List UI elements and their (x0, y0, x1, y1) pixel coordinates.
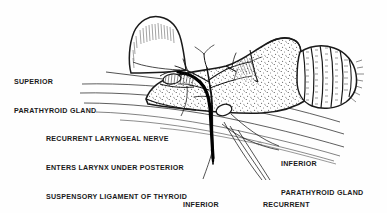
label-line: INFERIOR (183, 201, 249, 211)
anatomical-figure: SUPERIOR PARATHYROID GLAND RECURRENT LAR… (0, 0, 387, 213)
label-recurrent-laryngeal-nerve: RECURRENT LARYNGEAL NERVE (263, 181, 337, 213)
label-line: ENTERS LARYNX UNDER POSTERIOR (46, 164, 187, 174)
label-line: RECURRENT (263, 201, 337, 211)
label-line: INFERIOR (281, 160, 363, 170)
label-recurrent-laryngeal-nerve-description: RECURRENT LARYNGEAL NERVE ENTERS LARYNX … (46, 115, 187, 213)
label-line: SUPERIOR (14, 78, 96, 88)
label-line: SUSPENSORY LIGAMENT OF THYROID (46, 193, 187, 203)
label-inferior-thyroid-artery: INFERIOR THYROID ARTERY (183, 181, 249, 213)
label-line: RECURRENT LARYNGEAL NERVE (46, 135, 187, 145)
